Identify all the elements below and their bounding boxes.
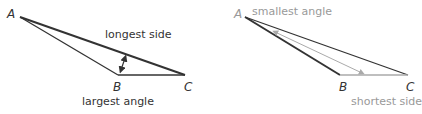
right-triangle (245, 17, 408, 75)
double-arrow-icon (275, 32, 362, 73)
vertex-c-right: C (406, 80, 414, 94)
vertex-b-right: B (339, 80, 347, 94)
smallest-angle-label: smallest angle (252, 5, 332, 18)
vertex-a-right: A (234, 7, 242, 21)
vertex-a-left: A (7, 7, 15, 21)
largest-angle-label: largest angle (82, 95, 154, 108)
double-arrow-icon (121, 58, 125, 70)
vertex-b-left: B (113, 80, 121, 94)
shortest-side-label: shortest side (351, 95, 422, 108)
longest-side-label: longest side (105, 28, 172, 41)
left-triangle (20, 17, 185, 75)
vertex-c-left: C (184, 80, 192, 94)
